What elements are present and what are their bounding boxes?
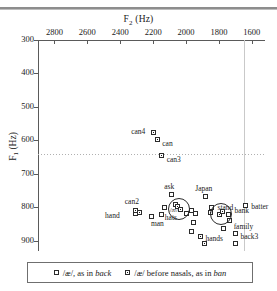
data-point — [221, 226, 226, 231]
data-point-label: ask — [164, 183, 174, 191]
y-tick-label: 400 — [4, 67, 34, 77]
y-tick-label: 800 — [4, 201, 34, 211]
data-point — [191, 220, 196, 225]
data-point-label: can2 — [125, 198, 139, 206]
data-point-label: can4 — [131, 128, 145, 136]
y-tick-label: 300 — [4, 34, 34, 44]
y-tick-label: 600 — [4, 134, 34, 144]
x-tick — [219, 40, 220, 44]
x-tick — [186, 40, 187, 44]
page-top-rule — [0, 7, 277, 9]
x-tick — [87, 40, 88, 44]
legend-item-label: /æ/ before nasals, as in ban — [134, 268, 226, 278]
data-point-label: man — [151, 220, 164, 228]
y-tick-label: 900 — [4, 235, 34, 245]
data-point-label: back3 — [240, 233, 258, 241]
nasal-ash-group — [210, 203, 232, 225]
legend-item-ban: /æ/ before nasals, as in ban — [125, 268, 226, 278]
x-tick — [120, 40, 121, 44]
x-tick — [54, 40, 55, 44]
y-axis-title-sub: 1 — [12, 152, 20, 156]
x-axis-title-sub: 2 — [129, 19, 133, 27]
legend: /æ/, as in back/æ/ before nasals, as in … — [27, 262, 253, 283]
data-point-label: family — [234, 223, 254, 231]
data-point-label: can — [162, 140, 172, 148]
open-square-icon — [54, 270, 59, 275]
x-tick-label: 1600 — [232, 27, 272, 37]
x-tick — [252, 40, 253, 44]
y-tick — [34, 207, 38, 208]
data-point — [151, 130, 156, 135]
y-tick — [34, 107, 38, 108]
data-point-label: batter — [251, 203, 268, 211]
data-point — [162, 205, 167, 210]
data-point — [233, 231, 238, 236]
x-axis-title-unit: (Hz) — [135, 14, 153, 24]
y-tick-label: 700 — [4, 168, 34, 178]
data-point — [169, 192, 174, 197]
filled-square-icon — [125, 270, 130, 275]
data-point-label: can3 — [167, 156, 181, 164]
plot-area: 2800260024002200200018001600 30040050060… — [38, 40, 265, 251]
data-point — [189, 229, 194, 234]
y-tick — [34, 174, 38, 175]
data-point — [193, 211, 198, 216]
data-point-label: hand — [105, 212, 120, 220]
data-point-label: hands — [206, 235, 224, 243]
data-point — [149, 214, 154, 219]
data-point — [159, 153, 164, 158]
y-tick-label: 500 — [4, 101, 34, 111]
y-tick — [34, 140, 38, 141]
data-point — [233, 241, 238, 246]
data-point — [159, 212, 164, 217]
figure-root: F2 (Hz) F1 (Hz) 280026002400220020001800… — [0, 0, 277, 291]
y-tick — [34, 40, 38, 41]
reference-line-vertical — [244, 40, 245, 251]
x-axis-title: F2 (Hz) — [0, 14, 277, 27]
y-axis-title-base: F — [8, 155, 18, 160]
y-tick — [34, 73, 38, 74]
data-point — [202, 241, 207, 246]
data-point — [198, 234, 203, 239]
group-label: /æ/ — [170, 206, 179, 214]
data-point-label: bank — [234, 207, 249, 215]
legend-item-label: /æ/, as in back — [63, 268, 112, 278]
y-tick — [34, 241, 38, 242]
data-point — [155, 137, 160, 142]
data-point-label: Japan — [195, 185, 212, 193]
x-axis-line — [38, 40, 265, 41]
reference-line-horizontal — [38, 154, 265, 155]
data-point — [203, 194, 208, 199]
data-point — [137, 210, 142, 215]
x-tick — [153, 40, 154, 44]
y-axis-line — [38, 40, 39, 251]
legend-item-back: /æ/, as in back — [54, 268, 112, 278]
